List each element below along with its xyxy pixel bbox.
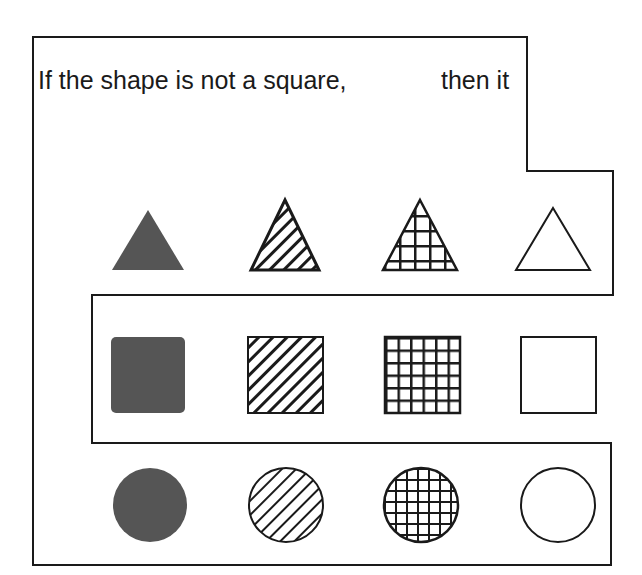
logic-diagram: If the shape is not a square, then it [0, 0, 642, 575]
triangle-striped [251, 200, 319, 270]
square-blank [521, 337, 596, 413]
triangle-checkered [383, 200, 457, 270]
square-checkered [385, 337, 460, 413]
triangle-solid [112, 210, 184, 270]
circle-checkered [384, 468, 458, 542]
circle-solid [113, 468, 187, 542]
circle-row [113, 468, 595, 542]
triangle-row [112, 200, 590, 270]
square-row [111, 337, 596, 413]
square-solid [111, 337, 185, 413]
circle-blank [521, 468, 595, 542]
circle-striped [249, 468, 323, 542]
condition-text: If the shape is not a square, [38, 66, 347, 95]
consequence-text: then it [441, 66, 509, 95]
square-striped [248, 337, 323, 413]
triangle-blank [516, 208, 590, 270]
